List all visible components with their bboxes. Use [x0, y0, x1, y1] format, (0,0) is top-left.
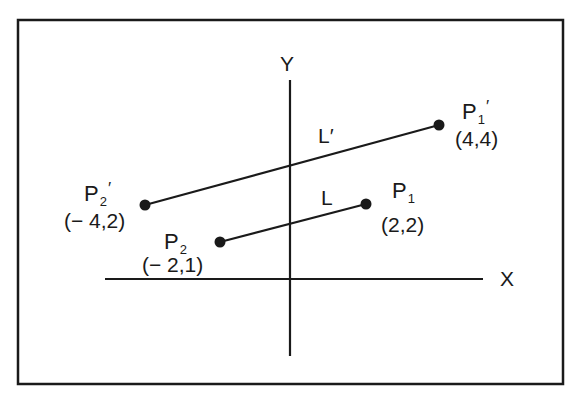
p1-prime-base: P — [462, 99, 477, 124]
p2-prime-mark: ′ — [108, 179, 111, 198]
p1-base: P — [392, 178, 407, 203]
point-p1 — [361, 199, 372, 210]
line-l-prime-label: L′ — [318, 125, 334, 146]
point-p2 — [215, 237, 226, 248]
p2-prime-sub: 2 — [100, 194, 107, 209]
p1-name: P1 — [392, 180, 415, 205]
point-p2-prime — [140, 200, 151, 211]
x-axis-label: X — [500, 268, 514, 289]
line-l-label: L — [321, 187, 333, 208]
p2-prime-base: P — [84, 181, 99, 206]
p2-prime-coords: (− 4,2) — [64, 210, 125, 231]
point-p1-prime — [434, 120, 445, 131]
p1-prime-sub: 1 — [478, 112, 485, 127]
p2-base: P — [164, 229, 179, 254]
p1-prime-mark: ′ — [486, 97, 489, 116]
p1-sub: 1 — [408, 191, 415, 206]
line-l — [220, 204, 366, 242]
p1-coords: (2,2) — [381, 214, 424, 235]
p1-prime-coords: (4,4) — [455, 128, 498, 149]
p1-prime-name: P1′ — [462, 98, 489, 126]
p2-prime-name: P2′ — [84, 180, 111, 208]
y-axis-label: Y — [280, 53, 294, 74]
p2-coords: (− 2,1) — [142, 254, 203, 275]
